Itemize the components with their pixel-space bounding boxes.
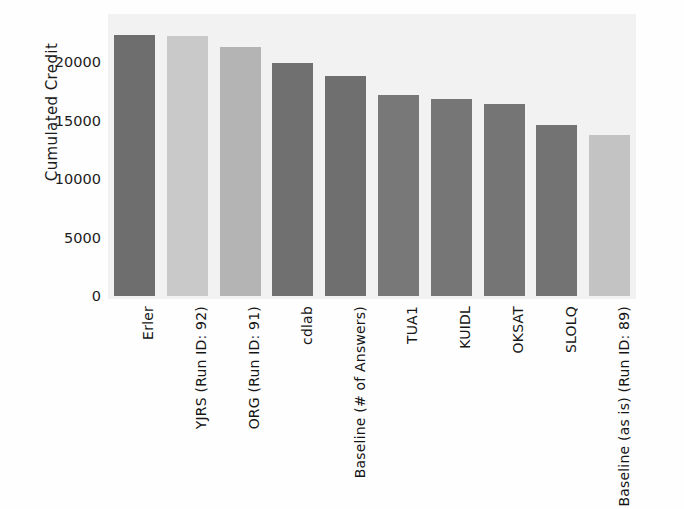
x-axis-tick-label: KUIDL	[457, 306, 473, 349]
x-axis-tick-label: cdlab	[299, 306, 315, 345]
x-axis-tick-label: ORG (Run ID: 91)	[246, 306, 262, 429]
y-axis-tick-labels: 05000100001500020000	[0, 0, 101, 509]
y-axis-tick-10000: 10000	[0, 171, 101, 187]
x-axis-tick-label: Baseline (# of Answers)	[352, 306, 368, 478]
x-axis-tick-label: TUA1	[404, 306, 420, 344]
x-axis-tick-label: Erler	[140, 306, 156, 340]
x-axis-tick-labels: ErlerYJRS (Run ID: 92)ORG (Run ID: 91)cd…	[108, 0, 636, 509]
bar-chart-figure: Cumulated Credit 05000100001500020000 Er…	[0, 0, 684, 509]
y-axis-tick-5000: 5000	[0, 230, 101, 246]
y-axis-tick-15000: 15000	[0, 113, 101, 129]
x-axis-tick-label: Baseline (as is) (Run ID: 89)	[616, 306, 632, 507]
x-axis-tick-label: YJRS (Run ID: 92)	[193, 306, 209, 429]
y-axis-tick-20000: 20000	[0, 54, 101, 70]
x-axis-tick-label: SLOLQ	[563, 306, 579, 353]
x-axis-tick-label: OKSAT	[510, 306, 526, 353]
y-axis-tick-0: 0	[0, 288, 101, 304]
